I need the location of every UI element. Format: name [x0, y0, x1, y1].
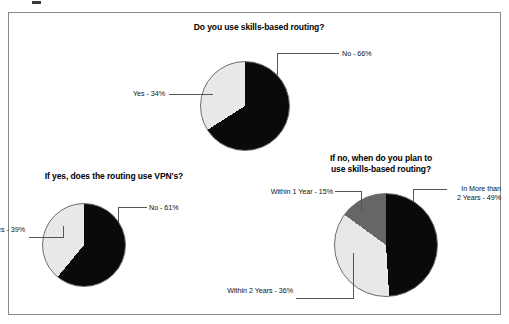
leader-line-more-than-2-years-horizontal [413, 189, 447, 190]
leader-line-no-vertical [277, 53, 278, 75]
pie-plan-to-use-skills-based-routing [334, 193, 438, 297]
slice-label-no: No - 66% [342, 49, 372, 58]
slice-label-more-than-2-years-line2: 2 Years - 49% [443, 193, 501, 202]
slice-label-within-1-year: Within 1 Year - 15% [243, 187, 333, 196]
leader-line-more-than-2-years-vertical [413, 189, 414, 201]
leader-line-yes-horizontal [169, 94, 213, 95]
chart-title-plan-line2: use skills-based routing? [306, 164, 456, 175]
chart-title-routing-use-vpns: If yes, does the routing use VPN's? [14, 171, 214, 182]
leader-line-no-horizontal [277, 53, 339, 54]
chart-title-skills-based-routing: Do you use skills-based routing? [109, 22, 409, 33]
leader-line-within-1-year-horizontal [335, 191, 362, 192]
slice-label-yes: Yes - 39% [0, 225, 25, 234]
leader-line-yes-vertical [63, 226, 64, 237]
chart-plan-to-use-skills-based-routing: If no, when do you plan to use skills-ba… [231, 148, 502, 316]
leader-line-within-2-years-horizontal [296, 298, 354, 299]
slice-label-within-2-years: Within 2 Years - 36% [211, 286, 293, 295]
leader-line-no-vertical [118, 207, 119, 223]
leader-line-within-1-year-vertical [361, 191, 362, 212]
chart-routing-use-vpns: If yes, does the routing use VPN's? No -… [9, 161, 219, 316]
chart-skills-based-routing: Do you use skills-based routing? No - 66… [9, 13, 502, 163]
leader-line-no-horizontal [118, 207, 147, 208]
figure-page: Do you use skills-based routing? No - 66… [0, 0, 509, 324]
leader-line-within-2-years-vertical [353, 253, 354, 298]
slice-label-yes: Yes - 34% [117, 89, 165, 98]
slice-label-no: No - 61% [149, 203, 179, 212]
pie-routing-use-vpns [42, 203, 126, 287]
leader-line-yes-horizontal [29, 237, 64, 238]
slice-label-more-than-2-years-line1: In More than [443, 184, 501, 193]
figure-border: Do you use skills-based routing? No - 66… [8, 12, 501, 315]
scan-artifact [32, 1, 41, 4]
chart-title-plan-line1: If no, when do you plan to [306, 153, 456, 164]
